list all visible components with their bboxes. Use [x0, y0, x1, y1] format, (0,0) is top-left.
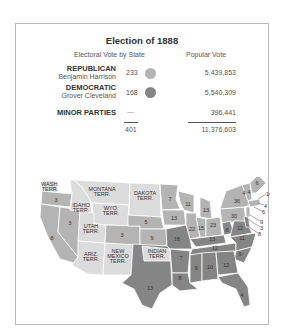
svg-text:TERR.: TERR.	[42, 186, 59, 192]
svg-text:4: 4	[247, 189, 250, 195]
svg-text:11: 11	[185, 201, 191, 207]
republican-popular: 5,439,853	[205, 69, 236, 76]
svg-text:TERR.: TERR.	[73, 207, 90, 213]
florida	[218, 273, 250, 307]
popular-total: 11,376,603	[201, 126, 236, 133]
svg-text:8: 8	[258, 231, 261, 237]
svg-text:TERR.: TERR.	[110, 258, 127, 264]
map-title: Election of 1888	[16, 35, 268, 46]
svg-text:4: 4	[240, 292, 243, 298]
svg-text:6: 6	[262, 209, 265, 215]
svg-text:4: 4	[242, 190, 245, 196]
svg-text:13: 13	[203, 207, 209, 213]
svg-text:TERR.: TERR.	[83, 256, 100, 262]
svg-text:12: 12	[223, 262, 229, 268]
massachusetts-votes: 14	[266, 191, 270, 197]
svg-text:10: 10	[207, 264, 213, 270]
svg-text:6: 6	[225, 227, 228, 233]
us-electoral-map: WASH.TERR. MONTANATERR. DAKOTATERR. IDAH…	[30, 177, 270, 322]
arkansas	[170, 249, 190, 273]
democratic-electoral: 168	[126, 89, 138, 96]
legend-minor-parties: MINOR PARTIES	[57, 109, 116, 117]
popular-vote-header: Popular Vote	[186, 51, 226, 58]
new-jersey	[246, 207, 250, 217]
svg-text:15: 15	[198, 225, 204, 231]
svg-text:16: 16	[174, 236, 180, 242]
svg-text:8: 8	[178, 275, 181, 281]
svg-text:TERR.: TERR.	[94, 191, 111, 197]
party-name: REPUBLICAN	[58, 65, 116, 73]
electoral-total-rule	[124, 122, 138, 123]
svg-text:13: 13	[171, 215, 177, 221]
svg-text:13: 13	[147, 285, 153, 291]
svg-text:TERR.: TERR.	[83, 228, 100, 234]
svg-text:12: 12	[237, 225, 243, 231]
svg-text:36: 36	[234, 198, 240, 204]
svg-text:9: 9	[238, 251, 241, 257]
popular-total-rule	[188, 122, 236, 123]
svg-text:13: 13	[209, 236, 215, 242]
svg-text:3: 3	[54, 197, 57, 203]
svg-text:3: 3	[68, 220, 71, 226]
electoral-total: 401	[125, 126, 137, 133]
svg-text:9: 9	[194, 265, 197, 271]
svg-text:30: 30	[231, 213, 237, 219]
electoral-vote-header: Electoral Vote by State	[74, 51, 145, 58]
svg-text:8: 8	[50, 235, 53, 241]
svg-text:23: 23	[210, 222, 216, 228]
svg-text:TERR.: TERR.	[149, 253, 166, 259]
democratic-swatch-icon	[145, 87, 156, 98]
svg-text:7: 7	[179, 255, 182, 261]
svg-text:11: 11	[239, 235, 245, 241]
candidate-name: Grover Cleveland	[62, 92, 116, 100]
svg-text:5: 5	[144, 219, 147, 225]
party-name: DEMOCRATIC	[62, 84, 116, 92]
democratic-popular: 5,540,309	[205, 89, 236, 96]
republican-swatch-icon	[145, 68, 156, 79]
svg-text:3: 3	[120, 232, 123, 238]
republican-electoral: 233	[126, 69, 138, 76]
svg-text:TERR.: TERR.	[103, 210, 120, 216]
svg-text:9: 9	[150, 235, 153, 241]
svg-text:6: 6	[255, 180, 258, 186]
minor-popular: 396,441	[211, 109, 236, 116]
svg-text:12: 12	[212, 245, 218, 251]
svg-text:7: 7	[168, 196, 171, 202]
legend-democratic: DEMOCRATIC Grover Cleveland	[62, 84, 116, 100]
candidate-name: Benjamin Harrison	[58, 73, 116, 81]
minor-electoral: —	[127, 108, 134, 115]
party-name: MINOR PARTIES	[57, 109, 116, 117]
svg-text:22: 22	[189, 226, 195, 232]
svg-text:TERR.: TERR.	[137, 195, 154, 201]
election-panel: Election of 1888 Electoral Vote by State…	[15, 23, 269, 325]
legend-republican: REPUBLICAN Benjamin Harrison	[58, 65, 116, 81]
